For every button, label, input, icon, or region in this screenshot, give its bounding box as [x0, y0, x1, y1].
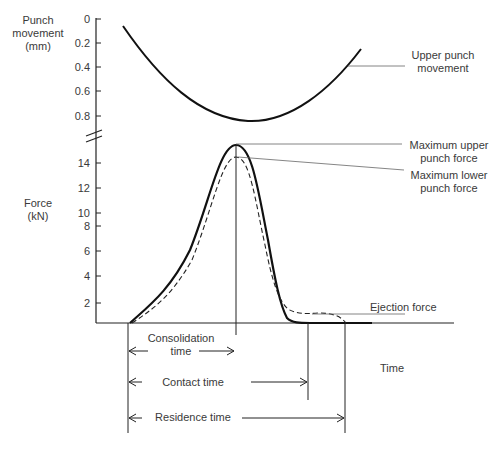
residence-time-label: Residence time [155, 411, 231, 423]
force-axis-title: (kN) [28, 210, 49, 222]
tick-label: 14 [78, 157, 90, 169]
consolidation-time-label: time [171, 345, 192, 357]
tick-label: 12 [78, 182, 90, 194]
movement-axis-title: (mm) [25, 40, 51, 52]
tick-label: 0.6 [75, 85, 90, 97]
force-ticks: 14 12 10 8 6 4 2 [78, 157, 101, 309]
time-axis-label: Time [380, 362, 404, 374]
movement-axis-title: Punch [22, 14, 53, 26]
tick-label: 0 [84, 13, 90, 25]
max-upper-force-label: Maximum upper [410, 139, 489, 151]
tick-label: 2 [84, 297, 90, 309]
lower-punch-force-curve [132, 157, 346, 323]
axis-break-mark [86, 130, 102, 136]
max-upper-force-label: punch force [420, 152, 477, 164]
tick-label: 8 [84, 220, 90, 232]
movement-ticks: 0 0.2 0.4 0.6 0.8 [75, 13, 101, 122]
upper-movement-label: movement [417, 62, 468, 74]
force-displacement-diagram: 0 0.2 0.4 0.6 0.8 14 12 10 8 6 4 2 Punch… [0, 0, 504, 450]
tick-label: 6 [84, 245, 90, 257]
max-lower-force-label: Maximum lower [410, 169, 487, 181]
ejection-force-label: Ejection force [370, 301, 437, 313]
movement-axis-title: movement [12, 27, 63, 39]
tick-label: 0.2 [75, 37, 90, 49]
upper-punch-movement-curve [123, 26, 361, 121]
tick-label: 0.4 [75, 61, 90, 73]
tick-label: 10 [78, 207, 90, 219]
leader-line [238, 157, 404, 170]
axis-break-mark [86, 136, 102, 142]
tick-label: 4 [84, 270, 90, 282]
contact-time-label: Contact time [162, 376, 224, 388]
force-axis-title: Force [24, 197, 52, 209]
tick-label: 0.8 [75, 110, 90, 122]
max-lower-force-label: punch force [420, 182, 477, 194]
upper-movement-label: Upper punch [412, 49, 475, 61]
consolidation-time-label: Consolidation [148, 332, 215, 344]
